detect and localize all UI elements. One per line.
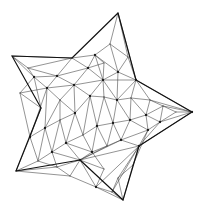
mesh-vertex [46, 87, 48, 89]
mesh-vertex [147, 129, 149, 131]
mesh-vertex [74, 112, 76, 114]
mesh-vertex [94, 54, 96, 56]
mesh-vertex [95, 186, 97, 188]
mesh-vertex [87, 67, 89, 69]
mesh-vertex [102, 79, 104, 81]
mesh-vertex [117, 71, 119, 73]
mesh-vertex [112, 122, 114, 124]
mesh-vertex [138, 145, 140, 147]
mesh-vertex [135, 79, 137, 81]
mesh-vertex [96, 125, 98, 127]
mesh-vertex [91, 151, 93, 153]
mesh-vertex [145, 114, 147, 116]
star-mesh-figure [0, 0, 213, 209]
mesh-vertex [73, 84, 75, 86]
mesh-vertex [51, 151, 53, 153]
mesh-vertex [129, 119, 131, 121]
mesh-vertex [44, 127, 46, 129]
mesh-vertex [29, 136, 31, 138]
mesh-vertex [159, 121, 161, 123]
mesh-vertex [120, 139, 122, 141]
mesh-vertex [65, 142, 67, 144]
mesh-vertex [33, 76, 35, 78]
mesh-vertex [56, 75, 58, 77]
mesh-vertex [89, 95, 91, 97]
mesh-vertex [116, 99, 118, 101]
mesh-vertex [191, 111, 193, 113]
mesh-vertex [79, 159, 81, 161]
